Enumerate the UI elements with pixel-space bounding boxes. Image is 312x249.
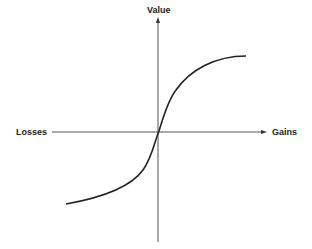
y-axis-label: Value bbox=[147, 5, 171, 15]
x-axis-arrowhead-icon bbox=[261, 130, 267, 134]
x-axis-left-label: Losses bbox=[16, 127, 47, 137]
y-axis-arrowhead-icon bbox=[156, 17, 160, 23]
value-function-diagram bbox=[0, 0, 312, 249]
value-curve bbox=[66, 56, 246, 204]
x-axis-right-label: Gains bbox=[272, 127, 297, 137]
